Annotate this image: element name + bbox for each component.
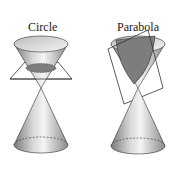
parabola-section	[116, 36, 155, 84]
lower-cone	[111, 88, 165, 154]
lower-cone	[14, 88, 68, 153]
upper-cone-opening	[14, 36, 68, 52]
conic-sections-diagram	[0, 0, 177, 180]
parabola-double-cone	[108, 30, 165, 154]
circle-double-cone	[10, 36, 72, 153]
circle-section	[26, 64, 56, 73]
